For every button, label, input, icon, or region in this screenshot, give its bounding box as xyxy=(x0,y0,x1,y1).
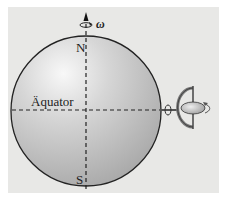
north-label: N xyxy=(76,40,85,56)
gyroscope xyxy=(160,86,210,129)
omega-label: ω xyxy=(96,17,105,32)
equator-label: Äquator xyxy=(31,94,74,110)
south-label: S xyxy=(76,172,83,188)
axis-arrow-icon xyxy=(84,12,89,21)
